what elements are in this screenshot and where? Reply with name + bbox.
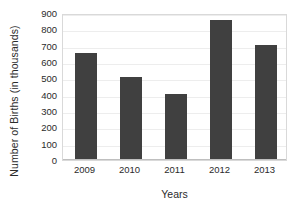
plot-area [62, 14, 287, 161]
y-tick-label: 200 [24, 123, 57, 133]
bar [165, 94, 187, 159]
bar [120, 77, 142, 159]
x-tick-label: 2009 [63, 164, 107, 175]
bar [210, 20, 232, 159]
y-tick-label: 0 [24, 156, 57, 166]
x-axis-line [63, 159, 286, 160]
y-tick-label: 300 [24, 107, 57, 117]
y-tick-label: 400 [24, 91, 57, 101]
y-tick-label: 100 [24, 140, 57, 150]
x-axis-title: Years [62, 188, 287, 200]
x-tick-label: 2010 [108, 164, 152, 175]
y-tick-label: 800 [24, 25, 57, 35]
y-tick-label: 700 [24, 42, 57, 52]
x-tick-label: 2013 [243, 164, 287, 175]
bars-group [63, 15, 286, 160]
y-tick-label: 600 [24, 58, 57, 68]
x-tick-label: 2011 [153, 164, 197, 175]
y-axis-title: Number of Births (in thousands) [4, 16, 24, 186]
y-tick-label: 500 [24, 74, 57, 84]
bar-chart: Number of Births (in thousands) 90080070… [0, 0, 301, 213]
y-tick-label: 900 [24, 9, 57, 19]
x-axis-tick-labels: 20092010201120122013 [62, 164, 287, 180]
y-axis-tick-labels: 9008007006005004003002001000 [24, 14, 57, 161]
bar [75, 53, 97, 159]
bar [255, 45, 277, 159]
x-tick-label: 2012 [198, 164, 242, 175]
